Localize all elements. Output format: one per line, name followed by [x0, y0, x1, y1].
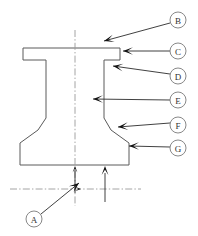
callout-g[interactable]: G [129, 140, 186, 156]
rail-profile-outline [20, 48, 129, 165]
leader-line-g [129, 146, 170, 147]
callout-label-b: B [175, 16, 181, 26]
leader-line-e [93, 99, 170, 100]
callout-label-a: A [31, 215, 38, 225]
callout-d[interactable]: D [113, 64, 186, 84]
callout-e[interactable]: E [93, 92, 186, 108]
rail-cross-section-figure: ABCDEFG [0, 0, 198, 236]
leader-line-d [113, 66, 170, 74]
callout-label-d: D [175, 72, 182, 82]
callout-label-g: G [175, 144, 182, 154]
leader-line-b [104, 23, 170, 41]
callout-b[interactable]: B [104, 12, 186, 42]
callout-c[interactable]: C [123, 43, 186, 59]
callout-f[interactable]: F [118, 117, 186, 133]
leader-line-a [41, 183, 79, 214]
callout-label-c: C [175, 47, 181, 57]
callout-label-e: E [175, 96, 181, 106]
technical-drawing-canvas: ABCDEFG [0, 0, 198, 236]
callout-a[interactable]: A [26, 183, 79, 227]
callout-label-f: F [175, 121, 180, 131]
